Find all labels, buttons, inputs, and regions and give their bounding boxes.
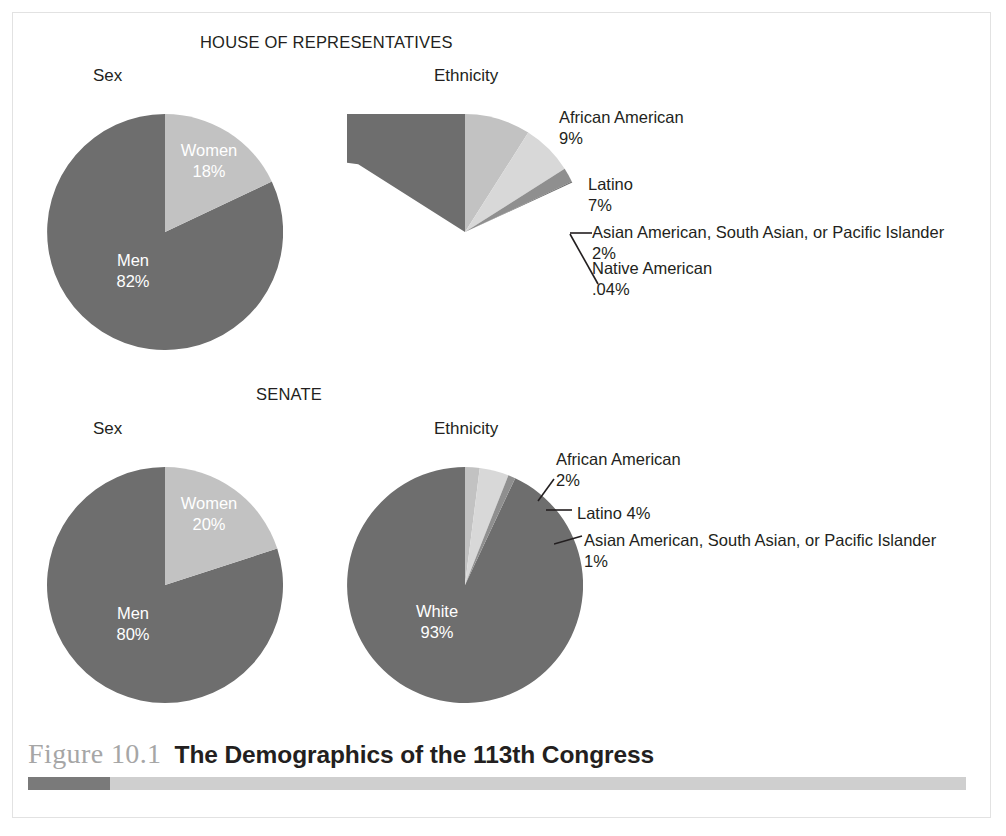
caption-rule-bar <box>28 777 966 790</box>
pie-house-sex: Women 18% Men 82% <box>47 114 283 350</box>
slice-label-senate-sex-men: Men 80% <box>93 603 173 645</box>
section-title-house: HOUSE OF REPRESENTATIVES <box>200 33 453 52</box>
pie-title-senate-ethnicity: Ethnicity <box>434 419 498 439</box>
slice-label-house-sex-men: Men 82% <box>93 250 173 292</box>
section-title-senate: SENATE <box>256 385 322 404</box>
callout-house-african-american: African American 9% <box>559 107 684 150</box>
slice-label-house-eth-white: White 82% <box>397 258 481 300</box>
pie-title-house-ethnicity: Ethnicity <box>434 66 498 86</box>
pie-senate-sex: Women 20% Men 80% <box>47 467 283 703</box>
figure-number: Figure 10.1 <box>28 738 162 770</box>
callout-house-latino: Latino 7% <box>588 174 633 217</box>
callout-senate-african-american: African American 2% <box>556 449 681 492</box>
figure-caption: Figure 10.1 The Demographics of the 113t… <box>28 738 654 770</box>
slice-label-house-sex-women: Women 18% <box>163 140 255 182</box>
callout-senate-latino: Latino 4% <box>577 503 650 524</box>
pie-title-senate-sex: Sex <box>93 419 122 439</box>
slice-label-senate-eth-white: White 93% <box>395 601 479 643</box>
slice-label-senate-sex-women: Women 20% <box>163 493 255 535</box>
figure-container: HOUSE OF REPRESENTATIVES Sex Women 18% M… <box>0 0 1006 836</box>
caption-rule-dark-segment <box>28 777 110 790</box>
caption-rule-light-segment <box>110 777 966 790</box>
pie-title-house-sex: Sex <box>93 66 122 86</box>
pie-house-ethnicity: White 82% <box>347 114 583 350</box>
callout-senate-asian-american: Asian American, South Asian, or Pacific … <box>584 530 936 573</box>
figure-title: The Demographics of the 113th Congress <box>175 741 655 769</box>
callout-house-native-american: Native American .04% <box>592 258 712 301</box>
pie-senate-ethnicity: White 93% <box>347 467 583 703</box>
